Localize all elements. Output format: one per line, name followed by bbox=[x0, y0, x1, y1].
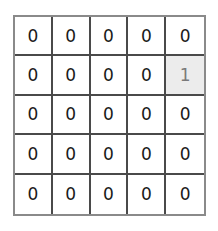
grid-cell: 0 bbox=[166, 175, 204, 214]
grid-cell: 0 bbox=[53, 56, 91, 95]
matrix-grid: 0 0 0 0 0 0 0 0 0 1 0 0 0 0 0 0 0 0 0 0 … bbox=[13, 15, 206, 216]
grid-cell: 0 bbox=[15, 96, 53, 135]
grid-cell: 0 bbox=[91, 56, 129, 95]
grid-cell: 0 bbox=[91, 17, 129, 56]
grid-cell: 0 bbox=[15, 56, 53, 95]
grid-cell: 0 bbox=[91, 135, 129, 174]
grid-cell: 0 bbox=[166, 96, 204, 135]
grid-cell: 0 bbox=[15, 17, 53, 56]
grid-cell: 0 bbox=[166, 17, 204, 56]
grid-cell: 0 bbox=[128, 96, 166, 135]
grid-cell: 0 bbox=[53, 96, 91, 135]
grid-cell: 0 bbox=[128, 175, 166, 214]
grid-cell: 0 bbox=[166, 135, 204, 174]
grid-cell: 0 bbox=[128, 17, 166, 56]
grid-cell: 0 bbox=[128, 135, 166, 174]
grid-cell: 0 bbox=[15, 135, 53, 174]
grid-cell: 0 bbox=[91, 96, 129, 135]
grid-cell: 0 bbox=[53, 175, 91, 214]
grid-cell: 0 bbox=[53, 135, 91, 174]
highlighted-grid-cell: 1 bbox=[166, 56, 204, 95]
grid-cell: 0 bbox=[15, 175, 53, 214]
grid-cell: 0 bbox=[53, 17, 91, 56]
grid-cell: 0 bbox=[128, 56, 166, 95]
grid-cell: 0 bbox=[91, 175, 129, 214]
